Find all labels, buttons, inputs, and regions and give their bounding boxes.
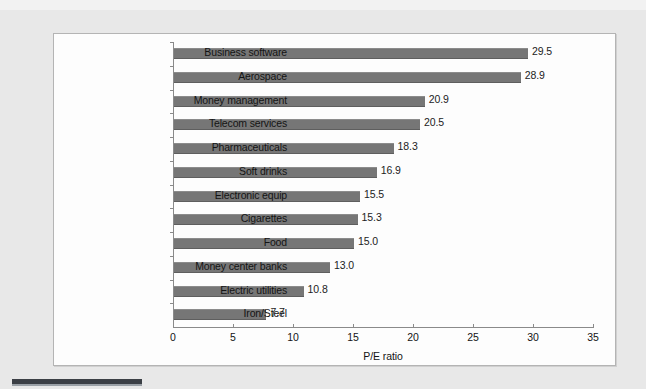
page-bottom-rule-shadow <box>12 384 142 386</box>
category-label: Electronic equip <box>127 189 287 201</box>
category-axis-tick <box>170 42 174 43</box>
value-axis-tick-label: 10 <box>287 331 299 343</box>
value-axis-tick <box>473 324 474 328</box>
bar-value-label: 10.8 <box>308 283 328 295</box>
bar-value-label: 18.3 <box>398 140 418 152</box>
value-axis-tick-label: 5 <box>230 331 236 343</box>
category-axis-tick <box>170 185 174 186</box>
value-axis-tick <box>233 324 234 328</box>
bar-value-label: 15.0 <box>358 235 378 247</box>
category-axis-tick <box>170 303 174 304</box>
category-label: Cigarettes <box>127 212 287 224</box>
category-label: Food <box>127 236 287 248</box>
bar-value-label: 15.5 <box>364 188 384 200</box>
figure-panel: 29.528.920.920.518.316.915.515.315.013.0… <box>53 33 616 366</box>
bar-value-label: 16.9 <box>381 164 401 176</box>
category-label: Pharmaceuticals <box>127 141 287 153</box>
value-axis-tick-label: 15 <box>347 331 359 343</box>
bar-value-label: 15.3 <box>362 211 382 223</box>
category-axis-tick <box>170 137 174 138</box>
value-axis-tick <box>353 324 354 328</box>
category-axis-tick <box>170 232 174 233</box>
category-label: Money center banks <box>127 260 287 272</box>
category-axis-tick <box>170 208 174 209</box>
value-axis-tick-label: 25 <box>467 331 479 343</box>
bar-value-label: 28.9 <box>525 69 545 81</box>
category-axis-tick <box>170 256 174 257</box>
category-label: Electric utilities <box>127 284 287 296</box>
category-label: Business software <box>127 46 287 58</box>
value-axis-tick <box>593 324 594 328</box>
value-axis-tick-label: 35 <box>587 331 599 343</box>
category-label: Aerospace <box>127 70 287 82</box>
category-axis-tick <box>170 280 174 281</box>
category-label: Iron/Steel <box>127 307 287 319</box>
category-axis-tick <box>170 90 174 91</box>
scanned-page: 29.528.920.920.518.316.915.515.315.013.0… <box>0 0 646 389</box>
value-axis-tick <box>533 324 534 328</box>
bar-chart-plot-area: 29.528.920.920.518.316.915.515.315.013.0… <box>173 42 593 327</box>
category-axis-tick <box>170 161 174 162</box>
category-axis-tick <box>170 66 174 67</box>
value-axis-tick <box>293 324 294 328</box>
bar-value-label: 29.5 <box>532 45 552 57</box>
category-label: Soft drinks <box>127 165 287 177</box>
value-axis-tick-label: 30 <box>527 331 539 343</box>
value-axis-tick-label: 0 <box>170 331 176 343</box>
value-axis-tick-label: 20 <box>407 331 419 343</box>
category-axis-tick <box>170 113 174 114</box>
bar-value-label: 20.9 <box>429 93 449 105</box>
category-label: Telecom services <box>127 117 287 129</box>
x-axis-title: P/E ratio <box>173 350 593 362</box>
bar-value-label: 13.0 <box>334 259 354 271</box>
category-label: Money management <box>127 94 287 106</box>
value-axis-line <box>173 327 594 328</box>
value-axis-tick <box>173 324 174 328</box>
value-axis-tick <box>413 324 414 328</box>
bar-value-label: 20.5 <box>424 116 444 128</box>
